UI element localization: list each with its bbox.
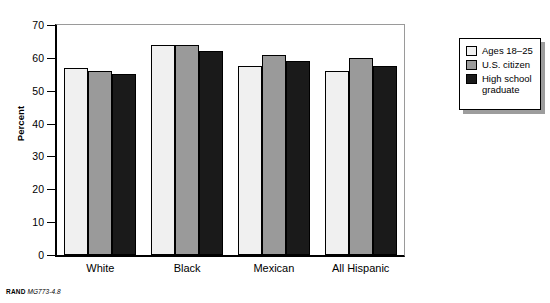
y-axis-tick-label: 70 bbox=[16, 20, 44, 31]
footer-document-id: MG773-4.8 bbox=[27, 288, 60, 295]
legend-item: Ages 18–25 bbox=[466, 45, 535, 56]
bar bbox=[349, 58, 373, 255]
bar bbox=[175, 45, 199, 255]
y-axis-tick-mark bbox=[47, 222, 55, 223]
legend-swatch bbox=[466, 46, 477, 56]
bar bbox=[238, 66, 262, 255]
legend-swatch bbox=[466, 60, 477, 70]
footer-organization: RAND bbox=[6, 288, 26, 295]
bar-group bbox=[325, 25, 397, 255]
bar-chart-figure: Percent 010203040506070 WhiteBlackMexica… bbox=[0, 0, 550, 303]
figure-footer: RAND MG773-4.8 bbox=[6, 288, 61, 295]
y-axis-tick-mark bbox=[47, 25, 55, 26]
y-axis-tick-label: 10 bbox=[16, 217, 44, 228]
y-axis-tick-mark bbox=[47, 156, 55, 157]
bar-group bbox=[151, 25, 223, 255]
y-axis-tick-label: 30 bbox=[16, 151, 44, 162]
bar bbox=[373, 66, 397, 255]
y-axis-tick-mark bbox=[47, 58, 55, 59]
legend-item: High school graduate bbox=[466, 73, 535, 95]
y-axis-tick-mark bbox=[47, 124, 55, 125]
bar-group bbox=[64, 25, 136, 255]
legend-label: Ages 18–25 bbox=[482, 45, 533, 56]
chart-legend: Ages 18–25U.S. citizenHigh school gradua… bbox=[459, 38, 541, 110]
y-axis-tick-label: 50 bbox=[16, 86, 44, 97]
bar bbox=[64, 68, 88, 255]
bar bbox=[325, 71, 349, 255]
legend-label: U.S. citizen bbox=[482, 59, 530, 70]
bar-group bbox=[238, 25, 310, 255]
bar bbox=[112, 74, 136, 255]
bar bbox=[151, 45, 175, 255]
y-axis-tick-label: 20 bbox=[16, 184, 44, 195]
y-axis-tick-label: 40 bbox=[16, 119, 44, 130]
legend-item: U.S. citizen bbox=[466, 59, 535, 70]
bar bbox=[262, 55, 286, 255]
legend-label: High school graduate bbox=[482, 73, 532, 95]
bar bbox=[88, 71, 112, 255]
x-axis-tick-label: All Hispanic bbox=[301, 262, 421, 274]
legend-swatch bbox=[466, 74, 477, 84]
y-axis-tick-mark bbox=[47, 255, 55, 256]
y-axis-tick-mark bbox=[47, 91, 55, 92]
bar bbox=[286, 61, 310, 255]
y-axis-tick-label: 0 bbox=[16, 250, 44, 261]
y-axis-tick-mark bbox=[47, 189, 55, 190]
bars-layer bbox=[57, 25, 404, 255]
y-axis-tick-label: 60 bbox=[16, 53, 44, 64]
bar bbox=[199, 51, 223, 255]
